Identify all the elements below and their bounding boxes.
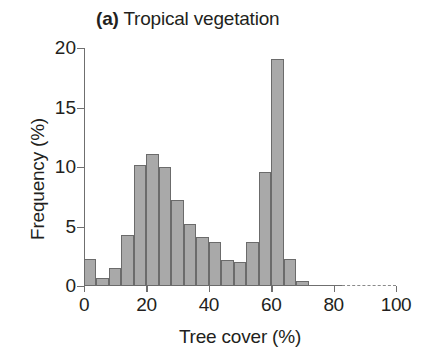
y-tick-label-15: 15 — [55, 97, 76, 119]
histogram-bar — [246, 242, 258, 286]
x-tick-20 — [146, 286, 147, 292]
x-tick-60 — [271, 286, 272, 292]
y-tick-15 — [77, 108, 84, 109]
histogram-bar — [96, 278, 108, 286]
histogram-bar — [184, 224, 196, 286]
histogram-bar — [159, 167, 171, 286]
y-tick-label-0: 0 — [65, 275, 76, 297]
x-axis-title: Tree cover (%) — [84, 326, 396, 348]
histogram-bar — [109, 268, 121, 286]
y-tick-label-5: 5 — [65, 216, 76, 238]
x-tick-40 — [209, 286, 210, 292]
y-tick-5 — [77, 227, 84, 228]
plot-area: 05101520 020406080100 — [84, 48, 396, 286]
y-axis-tick-labels: 05101520 — [38, 48, 76, 286]
histogram-bar — [209, 242, 221, 286]
x-tick-label-100: 100 — [381, 294, 412, 316]
x-tick-label-0: 0 — [79, 294, 89, 316]
histogram-bar — [296, 281, 308, 286]
histogram-bar — [171, 200, 183, 286]
x-axis-tick-labels: 020406080100 — [84, 294, 396, 320]
y-tick-20 — [77, 48, 84, 49]
page-title: (a) Tropical vegetation — [96, 8, 279, 30]
histogram-bar — [121, 235, 133, 286]
histogram-bar — [234, 262, 246, 286]
histogram-bar — [221, 260, 233, 286]
x-tick-0 — [84, 286, 85, 292]
histogram-bar — [259, 172, 271, 286]
panel-letter: (a) — [96, 8, 119, 29]
x-tick-100 — [396, 286, 397, 292]
histogram-bar — [84, 259, 96, 286]
x-tick-label-20: 20 — [136, 294, 156, 316]
x-tick-label-80: 80 — [323, 294, 343, 316]
figure-panel-a: (a) Tropical vegetation Frequency (%) Tr… — [0, 0, 422, 359]
histogram-bars — [84, 48, 396, 286]
x-tick-80 — [334, 286, 335, 292]
histogram-bar — [134, 165, 146, 286]
histogram-bar — [271, 59, 283, 286]
y-tick-label-20: 20 — [55, 37, 76, 59]
y-tick-0 — [77, 286, 84, 287]
histogram-bar — [196, 237, 208, 286]
panel-title-text: Tropical vegetation — [123, 8, 279, 29]
histogram-bar — [284, 259, 296, 286]
histogram-bar — [146, 154, 158, 286]
x-tick-label-40: 40 — [199, 294, 219, 316]
x-tick-label-60: 60 — [261, 294, 281, 316]
y-tick-label-10: 10 — [55, 156, 76, 178]
y-tick-10 — [77, 167, 84, 168]
